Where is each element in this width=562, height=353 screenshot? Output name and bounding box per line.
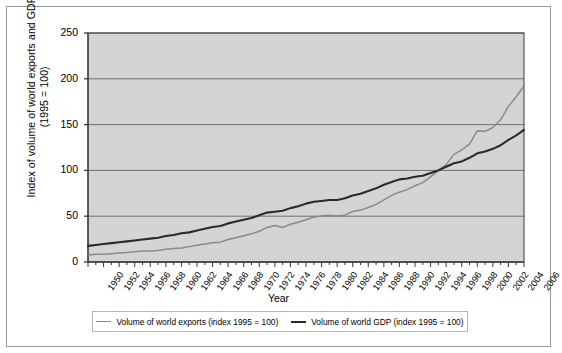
legend-label-gdp: Volume of world GDP (index 1995 = 100)	[311, 317, 463, 327]
y-tick-label: 200	[48, 72, 78, 84]
y-tick-label: 100	[48, 163, 78, 175]
y-tick-label: 0	[48, 255, 78, 267]
y-tick-label: 250	[48, 26, 78, 38]
legend-item-gdp: Volume of world GDP (index 1995 = 100)	[291, 317, 463, 327]
legend-label-exports: Volume of world exports (index 1995 = 10…	[116, 317, 278, 327]
legend-swatch-exports	[96, 321, 111, 322]
legend-swatch-gdp	[291, 321, 306, 323]
y-tick-label: 50	[48, 209, 78, 221]
y-tick-label: 150	[48, 118, 78, 130]
legend-item-exports: Volume of world exports (index 1995 = 10…	[96, 317, 278, 327]
chart-legend: Volume of world exports (index 1995 = 10…	[92, 311, 468, 332]
